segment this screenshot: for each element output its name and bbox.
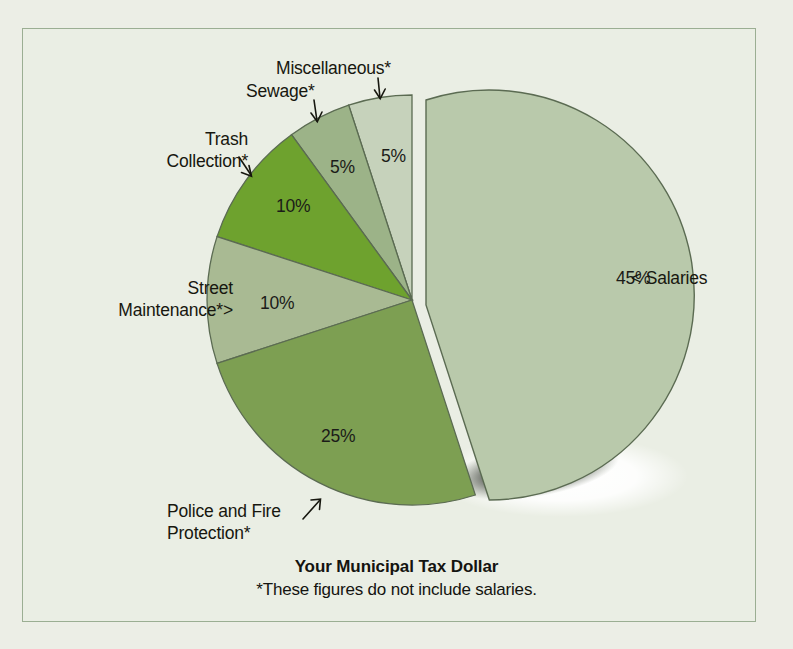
pie-chart-graphic bbox=[0, 0, 793, 649]
pie-value-miscellaneous: 5% bbox=[381, 146, 406, 167]
callout-label-street-maintenance-line1: Street bbox=[20, 277, 233, 299]
callout-label-sewage: Sewage* bbox=[246, 80, 315, 102]
pie-value-sewage: 5% bbox=[330, 157, 355, 178]
callout-label-police-fire-line1: Police and Fire bbox=[167, 500, 281, 522]
callout-label-trash-collection-line1: Trash bbox=[60, 128, 248, 150]
pie-slice-salaries-group[interactable] bbox=[426, 90, 694, 500]
callout-label-police-fire: Police and Fire Protection* bbox=[167, 500, 281, 544]
pie-value-street-maintenance: 10% bbox=[260, 293, 294, 314]
pie-value-trash-collection: 10% bbox=[276, 196, 310, 217]
callout-label-street-maintenance: Street Maintenance*> bbox=[20, 277, 233, 321]
pie-value-police-fire: 25% bbox=[321, 426, 355, 447]
callout-label-salaries: < Salaries bbox=[631, 267, 707, 289]
chart-caption-title: Your Municipal Tax Dollar bbox=[0, 556, 793, 578]
chart-canvas: 45% 25% 10% 10% 5% 5% Miscellaneous* Sew… bbox=[0, 0, 793, 649]
callout-label-police-fire-line2: Protection* bbox=[167, 522, 281, 544]
callout-label-miscellaneous: Miscellaneous* bbox=[276, 57, 391, 79]
callout-label-trash-collection: Trash Collection* bbox=[60, 128, 248, 172]
callout-label-street-maintenance-line2: Maintenance*> bbox=[20, 299, 233, 321]
arrow-police-fire-icon bbox=[303, 500, 320, 519]
chart-caption-footnote: *These figures do not include salaries. bbox=[0, 578, 793, 601]
callout-label-trash-collection-line2: Collection* bbox=[60, 150, 248, 172]
chart-caption: Your Municipal Tax Dollar *These figures… bbox=[0, 556, 793, 601]
pie-slice-salaries[interactable] bbox=[426, 90, 694, 500]
